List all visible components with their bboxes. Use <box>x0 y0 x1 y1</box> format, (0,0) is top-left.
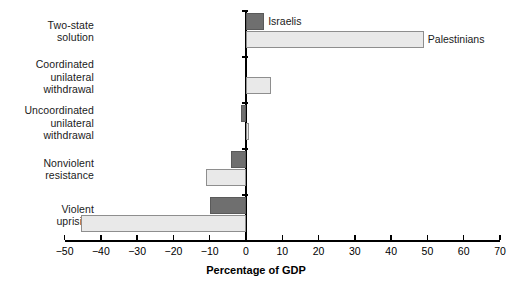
x-tick <box>318 235 320 240</box>
bar-palestinians <box>246 123 249 140</box>
bar-israelis <box>246 13 264 30</box>
x-tick <box>173 235 175 240</box>
x-tick-label: 30 <box>349 246 361 257</box>
x-tick-label: 60 <box>458 246 470 257</box>
x-tick <box>100 235 102 240</box>
x-tick-label: 10 <box>276 246 288 257</box>
category-tick <box>242 102 248 104</box>
x-tick <box>282 235 284 240</box>
x-tick-label: 50 <box>422 246 434 257</box>
x-tick <box>499 235 501 240</box>
x-tick-label: −40 <box>92 246 110 257</box>
x-tick-label: 70 <box>494 246 506 257</box>
bar-palestinians <box>246 31 424 48</box>
x-tick-label: −20 <box>165 246 183 257</box>
x-tick <box>354 235 356 240</box>
x-tick-label: −50 <box>56 246 74 257</box>
x-axis-title: Percentage of GDP <box>0 264 512 276</box>
x-tick <box>427 235 429 240</box>
category-tick <box>242 194 248 196</box>
x-tick <box>463 235 465 240</box>
x-tick <box>390 235 392 240</box>
category-tick <box>242 56 248 58</box>
bar-israelis <box>241 105 246 122</box>
bar-israelis <box>210 197 246 214</box>
chart-container: Two-statesolutionCoordinatedunilateralwi… <box>0 0 512 283</box>
plot-area: IsraelisPalestinians −50−40−30−20−100102… <box>0 0 512 283</box>
x-tick-label: 40 <box>385 246 397 257</box>
category-tick <box>242 10 248 12</box>
x-tick <box>64 235 66 240</box>
x-tick <box>136 235 138 240</box>
category-tick <box>242 148 248 150</box>
x-tick-label: −30 <box>128 246 146 257</box>
x-tick-label: 0 <box>243 246 249 257</box>
bar-palestinians <box>81 215 246 232</box>
bar-israelis <box>231 151 246 168</box>
series-label-israelis: Israelis <box>268 16 301 27</box>
series-label-palestinians: Palestinians <box>428 34 485 45</box>
bar-palestinians <box>206 169 246 186</box>
category-tick <box>242 240 248 242</box>
x-tick-label: −10 <box>201 246 219 257</box>
x-tick <box>209 235 211 240</box>
x-tick-label: 20 <box>313 246 325 257</box>
bar-palestinians <box>246 77 271 94</box>
x-axis-line <box>65 240 500 242</box>
